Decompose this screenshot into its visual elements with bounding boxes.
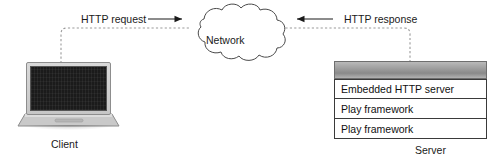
- client-label: Client: [51, 138, 78, 150]
- laptop-shadow: [23, 125, 114, 130]
- network-label: Network: [206, 34, 245, 46]
- client-laptop: [17, 62, 120, 132]
- server-rack-unit: [334, 61, 487, 79]
- connector-network-to-server: [281, 28, 410, 62]
- stack-row-label: Play framework: [341, 103, 413, 115]
- server-device: Embedded HTTP server Play framework Play…: [334, 61, 487, 141]
- arrow-http-response-icon: [297, 16, 333, 22]
- laptop-screen: [30, 66, 107, 111]
- stack-row-label: Embedded HTTP server: [341, 83, 454, 95]
- http-response-label: HTTP response: [344, 13, 417, 25]
- arrow-http-request-icon: [148, 16, 182, 22]
- stack-row-play-framework-1: Play framework: [334, 99, 487, 119]
- network-architecture-diagram: Embedded HTTP server Play framework Play…: [0, 0, 501, 166]
- server-label: Server: [415, 144, 446, 156]
- server-software-stack: Embedded HTTP server Play framework Play…: [334, 79, 487, 139]
- laptop-lid: [26, 62, 111, 115]
- stack-row-play-framework-2: Play framework: [334, 119, 487, 139]
- network-cloud-shape: [198, 4, 285, 60]
- stack-row-embedded-http-server: Embedded HTTP server: [334, 79, 487, 99]
- http-request-label: HTTP request: [81, 13, 146, 25]
- stack-row-label: Play framework: [341, 123, 413, 135]
